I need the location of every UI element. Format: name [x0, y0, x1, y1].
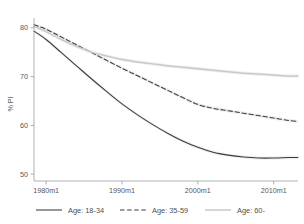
x-axis-ticks: 1980m11990m12000m12010m1: [33, 181, 287, 195]
y-axis-title: % PI: [6, 96, 15, 111]
series-line: [34, 31, 298, 158]
line-chart: 50607080 % PI 1980m11990m12000m12010m1 A…: [0, 0, 304, 224]
y-tick-label: 70: [20, 72, 28, 81]
y-tick-label: 80: [20, 23, 28, 32]
plot-area: [34, 23, 298, 160]
confidence-band: [34, 25, 298, 78]
legend-label-0: Age: 18-34: [68, 206, 104, 215]
y-axis-ticks: 50607080: [20, 23, 34, 178]
x-tick-label: 1990m1: [109, 186, 135, 195]
x-axis: 1980m11990m12000m12010m1: [33, 181, 298, 195]
y-tick-label: 60: [20, 121, 28, 130]
y-tick-label: 50: [20, 170, 28, 179]
x-tick-label: 2010m1: [261, 186, 287, 195]
confidence-band: [34, 29, 298, 159]
chart-legend: Age: 18-34Age: 35-59Age: 60-: [36, 206, 265, 215]
series-paths: [34, 25, 298, 158]
y-axis: 50607080 % PI: [6, 18, 34, 181]
x-tick-label: 2000m1: [185, 186, 211, 195]
legend-label-2: Age: 60-: [237, 206, 265, 215]
x-tick-label: 1980m1: [33, 186, 59, 195]
series-line: [34, 26, 298, 76]
legend-label-1: Age: 35-59: [152, 206, 188, 215]
chart-container: 50607080 % PI 1980m11990m12000m12010m1 A…: [0, 0, 304, 224]
